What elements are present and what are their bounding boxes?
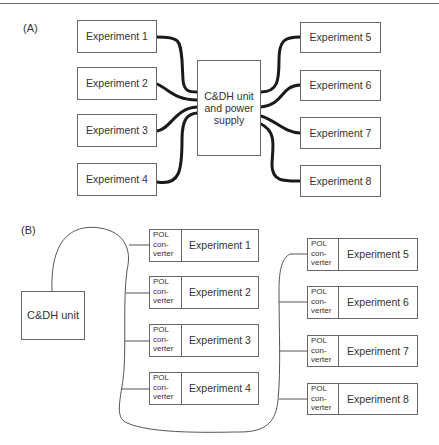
b-cdh-unit: C&DH unit xyxy=(21,291,85,340)
a-cdh-power-unit: C&DH unit and power supply xyxy=(197,60,261,156)
a-experiment-6: Experiment 6 xyxy=(300,70,381,101)
pol-line-1: POL xyxy=(153,230,169,240)
cable-exp1 xyxy=(157,37,197,92)
pol-line-2: con- xyxy=(153,240,169,250)
a-experiment-7: Experiment 7 xyxy=(300,117,381,149)
cable-exp6 xyxy=(261,85,300,107)
b-pol-converter-8: POL con- verter xyxy=(307,383,339,415)
b-pol-converter-6: POL con- verter xyxy=(307,286,339,319)
b-experiment-2: Experiment 2 xyxy=(182,276,259,309)
a-experiment-3: Experiment 3 xyxy=(77,114,157,147)
b-experiment-8: Experiment 8 xyxy=(339,383,418,415)
pol-line-3: verter xyxy=(153,392,173,402)
pol-line-3: verter xyxy=(153,344,173,354)
b-experiment-5: Experiment 5 xyxy=(339,238,418,271)
pol-line-1: POL xyxy=(311,287,327,297)
b-experiment-7: Experiment 7 xyxy=(339,335,418,367)
pol-line-1: POL xyxy=(311,336,327,346)
a-hub-line-2: and power xyxy=(204,102,253,114)
cable-exp3 xyxy=(157,107,197,131)
pol-line-2: con- xyxy=(311,249,327,259)
pol-line-3: verter xyxy=(311,258,331,268)
pol-line-1: POL xyxy=(153,325,169,335)
panel-b-label: (B) xyxy=(21,224,36,236)
pol-line-2: con- xyxy=(311,346,327,356)
pol-line-2: con- xyxy=(153,383,169,393)
pol-line-1: POL xyxy=(311,384,327,394)
pol-line-3: verter xyxy=(153,296,173,306)
b-pol-converter-2: POL con- verter xyxy=(149,276,182,309)
cable-exp5 xyxy=(261,37,300,92)
b-pol-converter-1: POL con- verter xyxy=(149,229,182,262)
pol-line-2: con- xyxy=(153,335,169,345)
pol-line-3: verter xyxy=(311,403,331,413)
pol-line-2: con- xyxy=(311,394,327,404)
cable-exp4 xyxy=(157,113,197,183)
a-experiment-4: Experiment 4 xyxy=(77,163,157,196)
b-experiment-4: Experiment 4 xyxy=(182,372,259,405)
b-experiment-6: Experiment 6 xyxy=(339,286,418,319)
a-hub-line-3: supply xyxy=(214,114,244,126)
b-pol-converter-4: POL con- verter xyxy=(149,372,182,405)
pol-line-1: POL xyxy=(153,277,169,287)
cable-exp7 xyxy=(261,116,300,133)
a-experiment-8: Experiment 8 xyxy=(300,165,381,197)
a-experiment-1: Experiment 1 xyxy=(77,20,157,53)
pol-line-3: verter xyxy=(311,355,331,365)
panel-a-label: (A) xyxy=(23,22,38,34)
b-pol-converter-5: POL con- verter xyxy=(307,238,339,271)
pol-line-1: POL xyxy=(311,239,327,249)
b-experiment-1: Experiment 1 xyxy=(182,229,259,262)
pol-line-2: con- xyxy=(153,287,169,297)
pol-line-1: POL xyxy=(153,373,169,383)
pol-line-3: verter xyxy=(311,306,331,316)
b-pol-converter-3: POL con- verter xyxy=(149,324,182,357)
b-pol-converter-7: POL con- verter xyxy=(307,335,339,367)
a-experiment-5: Experiment 5 xyxy=(300,22,381,53)
pol-line-2: con- xyxy=(311,297,327,307)
pol-line-3: verter xyxy=(153,249,173,259)
a-experiment-2: Experiment 2 xyxy=(77,67,157,100)
a-hub-line-1: C&DH unit xyxy=(204,90,254,102)
b-experiment-3: Experiment 3 xyxy=(182,324,259,357)
